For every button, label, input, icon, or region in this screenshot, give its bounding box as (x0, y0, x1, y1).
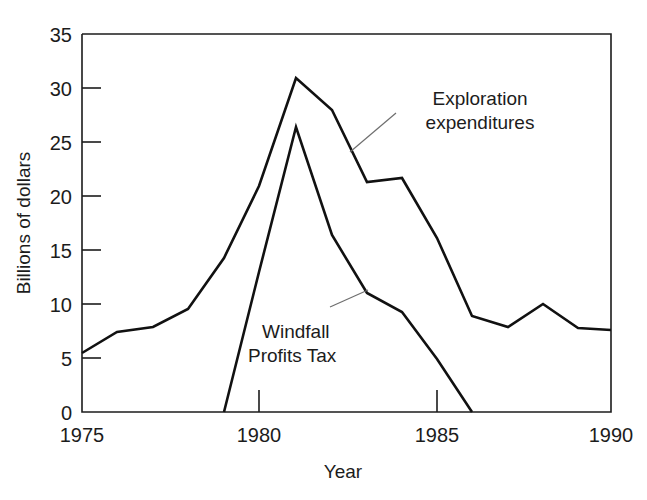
plot-frame (82, 34, 611, 412)
y-axis-title: Billions of dollars (13, 152, 34, 295)
x-axis-label-1990: 1990 (589, 424, 634, 446)
y-axis-label-30: 30 (50, 78, 72, 100)
x-axis-label-1980: 1980 (237, 424, 282, 446)
annotation-exploration-line1: Exploration (432, 88, 527, 109)
y-axis-label-5: 5 (61, 348, 72, 370)
x-axis-label-1975: 1975 (60, 424, 105, 446)
y-axis-label-0: 0 (61, 402, 72, 424)
series-line-windfall-profits-tax (224, 127, 472, 412)
leader-line-windfall (330, 290, 368, 307)
y-axis-label-20: 20 (50, 186, 72, 208)
leader-line-exploration (350, 113, 396, 152)
annotation-windfall-line1: Windfall (262, 321, 330, 342)
y-axis-label-25: 25 (50, 132, 72, 154)
y-axis-label-10: 10 (50, 294, 72, 316)
x-axis-label-1985: 1985 (415, 424, 460, 446)
annotation-windfall-line2: Profits Tax (248, 345, 337, 366)
annotation-exploration-line2: expenditures (426, 112, 535, 133)
line-chart-figure: 35 30 25 20 15 10 5 0 1975 1980 1985 199… (0, 0, 647, 500)
chart-canvas: 35 30 25 20 15 10 5 0 1975 1980 1985 199… (0, 0, 647, 500)
y-axis-label-35: 35 (50, 24, 72, 46)
x-axis-title: Year (324, 461, 363, 482)
y-axis-label-15: 15 (50, 240, 72, 262)
